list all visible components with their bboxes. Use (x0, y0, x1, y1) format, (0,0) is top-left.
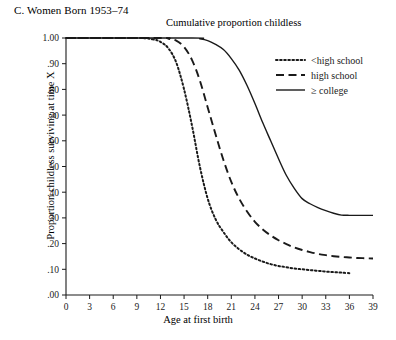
chart-legend: <high schoolhigh school≥ college (276, 55, 363, 96)
y-axis-title: Proportion childless surviving at time X (45, 26, 56, 286)
x-tick-label: 24 (250, 302, 260, 312)
series-line-0 (66, 38, 349, 273)
legend-label-2: ≥ college (311, 85, 348, 96)
plot-area: .00.10.20.30.40.50.60.70.80.901.00 03691… (0, 0, 396, 340)
legend-label-1: high school (311, 70, 358, 81)
chart-title: Cumulative proportion childless (166, 17, 301, 28)
x-tick-label: 12 (156, 302, 166, 312)
legend-label-0: <high school (311, 55, 363, 66)
x-tick-label: 27 (274, 302, 284, 312)
x-axis-title: Age at first birth (0, 314, 396, 325)
x-tick-label: 18 (203, 302, 213, 312)
x-tick-label: 9 (134, 302, 139, 312)
x-tick-label: 36 (345, 302, 355, 312)
x-tick-label: 15 (179, 302, 189, 312)
x-tick-label: 30 (297, 302, 307, 312)
x-tick-label: 6 (111, 302, 116, 312)
x-tick-label: 39 (368, 302, 378, 312)
x-tick-label: 3 (87, 302, 92, 312)
y-tick-label: .00 (47, 290, 59, 300)
x-tick-label: 33 (321, 302, 331, 312)
x-tick-label: 0 (64, 302, 69, 312)
chart-container: C. Women Born 1953–74 Cumulative proport… (0, 0, 396, 340)
x-tick-label: 21 (227, 302, 237, 312)
x-axis-ticks: 036912151821242730333639 (64, 295, 378, 312)
panel-label: C. Women Born 1953–74 (14, 4, 129, 16)
